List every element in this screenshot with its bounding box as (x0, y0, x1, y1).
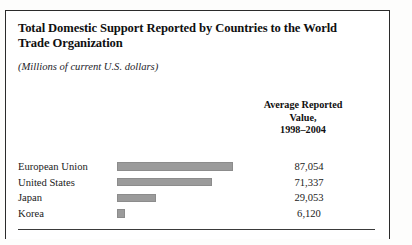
bar-value-label: 87,054 (250, 159, 368, 175)
bar-value-label: 29,053 (250, 190, 368, 206)
bar-category-label: European Union (18, 159, 114, 175)
value-column-header-line-1: Average Reported (238, 99, 368, 112)
table-row: Korea 6,120 (18, 206, 380, 222)
bar-japan (117, 194, 156, 202)
bar-chart: European Union 87,054 United States 71,3… (18, 159, 380, 221)
bar-category-label: Korea (18, 206, 114, 222)
bar-track (117, 159, 257, 175)
bar-united-states (117, 178, 212, 186)
bar-track (117, 190, 257, 206)
bar-category-label: United States (18, 175, 114, 191)
value-column-header-line-3: 1998–2004 (238, 124, 368, 137)
bar-category-label: Japan (18, 190, 114, 206)
table-row: United States 71,337 (18, 175, 380, 191)
bar-value-label: 71,337 (250, 175, 368, 191)
bar-track (117, 175, 257, 191)
value-column-header: Average Reported Value, 1998–2004 (238, 99, 368, 137)
value-column-header-line-2: Value, (238, 112, 368, 125)
figure-subtitle: (Millions of current U.S. dollars) (18, 60, 375, 73)
bar-european-union (117, 162, 233, 170)
source-divider (18, 229, 375, 230)
figure-title: Total Domestic Support Reported by Count… (18, 19, 358, 51)
table-row: Japan 29,053 (18, 190, 380, 206)
bar-value-label: 6,120 (250, 206, 368, 222)
table-row: European Union 87,054 (18, 159, 380, 175)
bar-track (117, 206, 257, 222)
bar-korea (117, 209, 125, 217)
figure-frame: Total Domestic Support Reported by Count… (5, 10, 390, 239)
